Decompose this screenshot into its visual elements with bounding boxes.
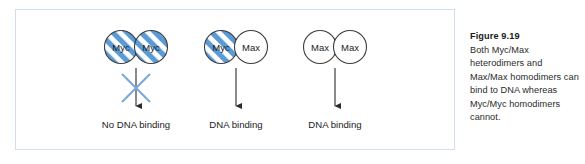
group-myc-myc: Myc Myc No DNA binding — [102, 31, 170, 131]
figure-caption-body: Both Myc/Max heterodimers and Max/Max ho… — [470, 44, 582, 124]
dimer-diagram: Myc Myc No DNA binding — [16, 10, 456, 151]
figure-container: Myc Myc No DNA binding — [0, 0, 585, 164]
figure-caption-title: Figure 9.19 — [470, 30, 582, 44]
node-max-right: Max — [334, 31, 367, 64]
node-max-right: Max — [235, 31, 268, 64]
diagram-panel: Myc Myc No DNA binding — [15, 9, 455, 150]
node-myc-left: Myc — [105, 31, 138, 64]
node-label: Max — [341, 42, 359, 53]
outcome-label: DNA binding — [209, 119, 262, 130]
node-label: Myc — [212, 42, 230, 53]
node-myc-left: Myc — [205, 31, 238, 64]
node-label: Max — [242, 42, 260, 53]
node-myc-right: Myc — [135, 31, 168, 64]
outcome-label: No DNA binding — [102, 119, 170, 130]
node-max-left: Max — [304, 31, 337, 64]
outcome-label: DNA binding — [308, 119, 361, 130]
figure-caption: Figure 9.19 Both Myc/Max heterodimers an… — [470, 30, 582, 124]
node-label: Myc — [142, 42, 160, 53]
group-myc-max: Myc Max DNA binding — [205, 31, 268, 131]
node-label: Max — [311, 42, 329, 53]
group-max-max: Max Max DNA binding — [304, 31, 367, 131]
node-label: Myc — [112, 42, 130, 53]
